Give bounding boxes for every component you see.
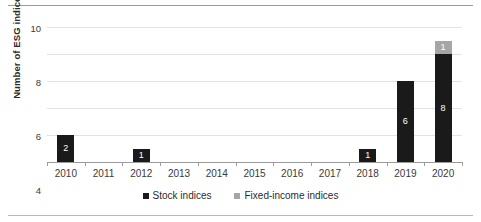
x-axis-tick-mark [122,162,123,166]
legend-swatch-icon [143,193,149,199]
x-axis-label-2020: 2020 [421,168,465,179]
bar-slot-2010[interactable]: 2 [47,27,85,162]
plot-area: 0246810 211618 [47,27,462,162]
bar-segment-stock[interactable]: 6 [397,81,414,162]
x-axis-tick-mark [85,162,86,166]
bar-segment-stock[interactable]: 1 [133,149,150,163]
bar-slot-2011[interactable] [85,27,123,162]
bar-value-label: 1 [359,151,376,160]
legend-item-fixed-income-indices[interactable]: Fixed-income indices [234,190,338,201]
bar-slot-2016[interactable] [273,27,311,162]
bar-slot-2013[interactable] [160,27,198,162]
bar-value-label: 1 [133,151,150,160]
y-axis-title: Number of ESG indices [10,0,24,120]
legend-item-stock-indices[interactable]: Stock indices [143,190,212,201]
bar-value-label: 6 [397,117,414,126]
bar-stack[interactable]: 18 [435,41,452,163]
bar-segment-stock[interactable]: 1 [359,149,376,163]
bar-segment-fixed-income[interactable]: 1 [435,41,452,55]
bar-slot-2017[interactable] [311,27,349,162]
top-divider [8,5,473,6]
bar-stack[interactable]: 1 [359,149,376,163]
axis-baseline: 0 [47,162,462,163]
bar-slot-2018[interactable]: 1 [349,27,387,162]
x-axis-tick-mark [198,162,199,166]
bar-slot-2019[interactable]: 6 [387,27,425,162]
x-axis-tick-mark [311,162,312,166]
bar-value-label: 1 [435,43,452,52]
y-axis-tick-label: 8 [36,77,41,88]
x-axis-tick-mark [160,162,161,166]
bar-slot-2015[interactable] [236,27,274,162]
bar-value-label: 8 [435,104,452,113]
bar-slot-2020[interactable]: 18 [424,27,462,162]
x-axis-tick-mark [424,162,425,166]
bar-segment-stock[interactable]: 2 [57,135,74,162]
bottom-divider [8,215,473,216]
bar-stack[interactable]: 2 [57,135,74,162]
chart-legend: Stock indicesFixed-income indices [0,190,481,201]
legend-swatch-icon [234,193,240,199]
x-axis-tick-mark [462,162,463,166]
bar-stack[interactable]: 1 [133,149,150,163]
chart-figure: Number of ESG indices 0246810 211618 201… [0,0,481,222]
x-axis-tick-mark [47,162,48,166]
y-axis-tick-label: 6 [36,131,41,142]
x-axis-tick-mark [236,162,237,166]
bar-slot-2012[interactable]: 1 [122,27,160,162]
x-axis-tick-mark [349,162,350,166]
x-axis-tick-mark [273,162,274,166]
legend-label: Stock indices [153,190,212,201]
x-axis-tick-mark [387,162,388,166]
legend-label: Fixed-income indices [244,190,338,201]
bar-slot-2014[interactable] [198,27,236,162]
bar-stack[interactable]: 6 [397,81,414,162]
y-axis-tick-label: 10 [30,23,41,34]
bar-value-label: 2 [57,144,74,153]
bar-segment-stock[interactable]: 8 [435,54,452,162]
